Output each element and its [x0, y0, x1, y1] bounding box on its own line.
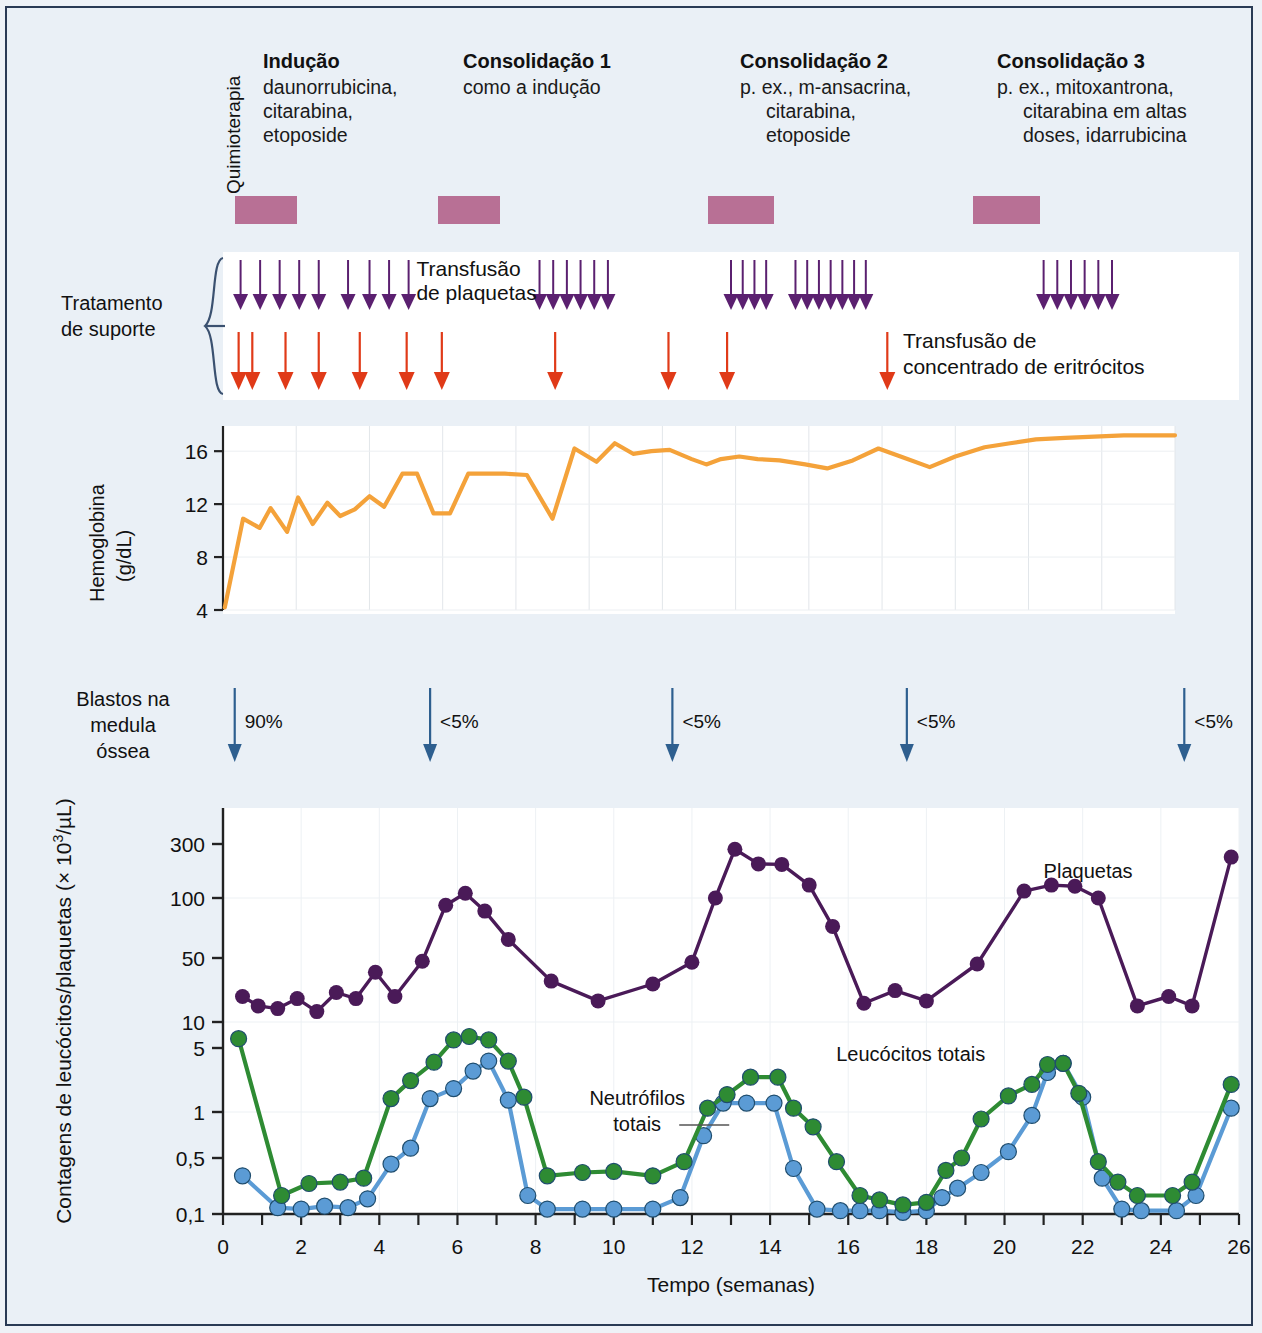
chemo-cycle-bar [708, 196, 774, 224]
counts-data-point [719, 1087, 735, 1103]
counts-data-point [1091, 891, 1106, 906]
hemoglobin-axis-label-line-1: Hemoglobina [86, 484, 109, 602]
counts-data-point [317, 1198, 333, 1214]
counts-data-point [340, 1200, 356, 1216]
blast-marrow-section: Blastos na medula óssea 90%<5%<5%<5%<5% [33, 674, 1239, 784]
counts-data-point [446, 1081, 462, 1097]
counts-data-point [465, 1063, 481, 1079]
chemo-cycle-drug: citarabina em altas [997, 99, 1257, 123]
counts-data-point [500, 1092, 516, 1108]
counts-data-point [309, 1004, 324, 1019]
counts-data-point [856, 996, 871, 1011]
counts-data-point [786, 1100, 802, 1116]
counts-data-point [950, 1180, 966, 1196]
neutrophils-annotation-line-2: totais [613, 1113, 661, 1135]
counts-data-point [825, 919, 840, 934]
counts-data-point [544, 974, 559, 989]
counts-x-ticklabel: 16 [837, 1235, 860, 1258]
erythrocyte-legend-line-2: concentrado de eritrócitos [903, 355, 1145, 378]
transfusion-arrow [292, 260, 307, 310]
counts-data-point [672, 1190, 688, 1206]
transfusion-arrow [311, 260, 326, 310]
transfusion-arrow [587, 260, 602, 310]
counts-data-point [973, 1111, 989, 1127]
counts-data-point [852, 1188, 868, 1204]
counts-data-point [500, 1053, 516, 1069]
counts-x-ticklabel: 6 [452, 1235, 464, 1258]
counts-data-point [829, 1154, 845, 1170]
counts-data-point [415, 954, 430, 969]
counts-data-point [832, 1203, 848, 1219]
counts-y-ticklabel: 5 [193, 1037, 205, 1060]
counts-data-point [970, 957, 985, 972]
chemo-cycle-bar [235, 196, 298, 224]
transfusion-arrow [735, 260, 750, 310]
transfusion-arrow [747, 260, 762, 310]
counts-data-point [1024, 1107, 1040, 1123]
hemoglobin-plot-bg [223, 426, 1175, 614]
counts-data-point [1165, 1188, 1181, 1204]
blast-arrows-svg: 90%<5%<5%<5%<5% [223, 684, 1239, 784]
counts-data-point [918, 1194, 934, 1210]
counts-data-point [332, 1174, 348, 1190]
transfusion-arrow [759, 260, 774, 310]
counts-data-point [809, 1201, 825, 1217]
transfusion-arrow [399, 332, 415, 390]
chemo-cycle-drug: citarabina, [740, 99, 1000, 123]
counts-x-ticklabel: 12 [680, 1235, 703, 1258]
transfusion-arrow [341, 260, 356, 310]
transfusion-arrow [244, 332, 260, 390]
counts-data-point [739, 1095, 755, 1111]
counts-data-point [438, 898, 453, 913]
counts-data-point [383, 1156, 399, 1172]
chemo-cycle-bar [973, 196, 1039, 224]
transfusion-arrow [823, 260, 838, 310]
counts-y-ticklabel: 0,5 [176, 1147, 205, 1170]
counts-data-point [348, 991, 363, 1006]
chemo-cycle-2: Consolidação 1como a indução [463, 50, 723, 99]
counts-data-point [458, 886, 473, 901]
hemoglobin-y-ticklabel: 12 [185, 493, 208, 516]
counts-data-point [251, 998, 266, 1013]
counts-data-point [235, 989, 250, 1004]
transfusion-arrow [546, 260, 561, 310]
counts-data-point [387, 989, 402, 1004]
transfusion-arrow [788, 260, 803, 310]
support-label-line-2: de suporte [61, 318, 156, 341]
blast-marker [423, 688, 437, 762]
chemo-cycle-title: Consolidação 3 [997, 50, 1257, 73]
counts-x-ticklabel: 26 [1227, 1235, 1250, 1258]
transfusion-arrow [231, 332, 247, 390]
counts-data-point [805, 1119, 821, 1135]
counts-data-point [700, 1100, 716, 1116]
counts-data-point [481, 1053, 497, 1069]
chemo-cycle-drug: p. ex., m-ansacrina, [740, 75, 1000, 99]
platelet-legend-line-2: de plaquetas [416, 281, 536, 304]
counts-data-point [774, 857, 789, 872]
counts-data-point [919, 993, 934, 1008]
counts-data-point [802, 878, 817, 893]
counts-x-axis-title: Tempo (semanas) [647, 1273, 815, 1296]
platelets-annotation: Plaquetas [1044, 860, 1133, 882]
transfusion-arrow [1063, 260, 1078, 310]
hemoglobin-y-ticklabel: 4 [196, 599, 208, 622]
counts-data-point [1024, 1076, 1040, 1092]
counts-data-point [403, 1140, 419, 1156]
chemo-cycle-bar [438, 196, 501, 224]
transfusion-arrow [401, 260, 416, 310]
transfusion-arrow [835, 260, 850, 310]
blast-label-line-3: óssea [53, 740, 193, 763]
transfusion-arrow [352, 332, 368, 390]
blast-value-label: 90% [245, 711, 283, 732]
counts-data-point [270, 1001, 285, 1016]
chemotherapy-axis-label: Quimioterapia [223, 76, 245, 194]
support-treatment-section: Tratamento de suporte Transfusãode plaqu… [33, 234, 1239, 409]
blast-marker [228, 688, 242, 762]
counts-y-ticklabel: 50 [182, 947, 205, 970]
counts-data-point [1161, 989, 1176, 1004]
counts-data-point [743, 1069, 759, 1085]
counts-data-point [575, 1201, 591, 1217]
svg-text:Contagens de leucócitos/plaque: Contagens de leucócitos/plaquetas (× 103… [50, 798, 75, 1224]
chemo-cycle-drug: citarabina, [263, 99, 523, 123]
counts-y-ticklabel: 100 [170, 887, 205, 910]
